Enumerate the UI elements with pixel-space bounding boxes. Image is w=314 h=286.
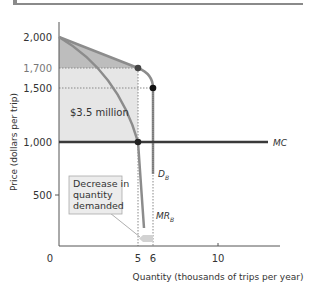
x-tick-label-10: 10: [212, 253, 225, 264]
profit-area: [59, 68, 138, 142]
chart: Decrease in quantity demanded $3.5 milli…: [0, 0, 314, 286]
demand-label-main: D: [158, 169, 165, 179]
point-6-1500: [150, 85, 157, 92]
profit-label: $3.5 million: [70, 107, 129, 118]
x-tick-label-0: 0: [47, 253, 53, 264]
x-tick-label-6: 6: [150, 253, 156, 264]
annotation-line-3: demanded: [73, 200, 124, 211]
mr-label-main: MR: [156, 211, 170, 221]
y-tick-label-2000: 2,000: [23, 32, 52, 43]
point-5-1700: [135, 65, 142, 72]
point-5-1000: [135, 139, 142, 146]
decrease-arrow-icon: [139, 235, 153, 242]
x-tick-label-5: 5: [135, 253, 141, 264]
y-tick-label-1700: 1,700: [23, 63, 52, 74]
x-axis-title: Quantity (thousands of trips per year): [133, 272, 304, 282]
y-tick-label-500: 500: [33, 190, 52, 201]
annotation-line-2: quantity: [73, 189, 113, 200]
y-axis-title: Price (dollars per trip): [9, 93, 19, 191]
mc-label: MC: [273, 138, 288, 148]
mr-label-sub: B: [170, 216, 174, 223]
annotation-leader: [110, 213, 140, 237]
demand-label: DB: [158, 169, 169, 181]
y-tick-label-1000: 1,000: [23, 137, 52, 148]
annotation-line-1: Decrease in: [73, 178, 129, 189]
y-tick-label-1500: 1,500: [23, 83, 52, 94]
mr-label: MRB: [156, 211, 174, 223]
demand-label-sub: B: [165, 174, 169, 181]
